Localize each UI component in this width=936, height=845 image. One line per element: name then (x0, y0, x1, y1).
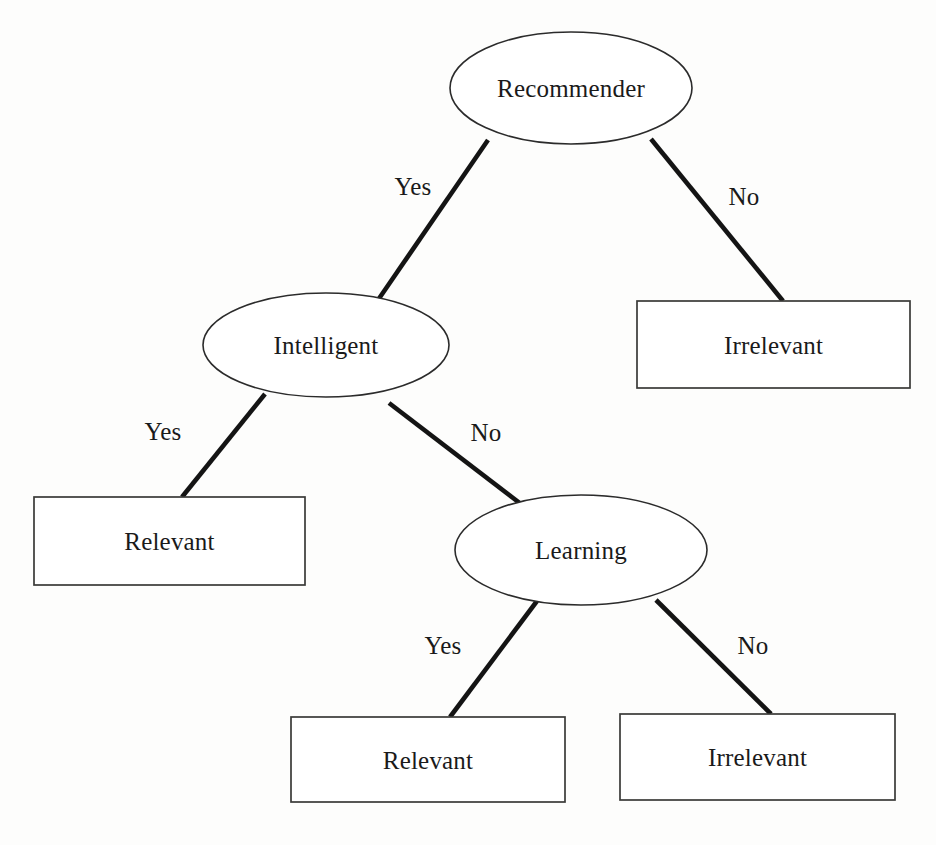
edge-label-learning-yes: Yes (425, 633, 462, 658)
edge-label-recommender-no: No (729, 184, 760, 209)
decision-tree-canvas (0, 0, 936, 845)
node-label-recommender: Recommender (497, 76, 645, 101)
node-label-irrelevant-bottom: Irrelevant (708, 745, 807, 770)
edge-label-learning-no: No (738, 633, 769, 658)
edge-label-intelligent-no: No (471, 420, 502, 445)
node-label-intelligent: Intelligent (274, 333, 379, 358)
node-label-irrelevant-top: Irrelevant (724, 332, 823, 357)
node-label-learning: Learning (535, 538, 627, 563)
tree-edge-recommender-yes (378, 140, 488, 300)
decision-tree-diagram: YesNoYesNoYesNoRecommenderIntelligentLea… (0, 0, 936, 845)
edge-label-intelligent-yes: Yes (145, 419, 182, 444)
node-label-relevant-bottom: Relevant (383, 747, 473, 772)
tree-edge-intelligent-yes (182, 394, 265, 497)
node-label-relevant-left: Relevant (124, 529, 214, 554)
edge-label-recommender-yes: Yes (395, 174, 432, 199)
tree-edge-learning-yes (450, 601, 537, 717)
tree-edge-recommender-no (651, 139, 783, 301)
